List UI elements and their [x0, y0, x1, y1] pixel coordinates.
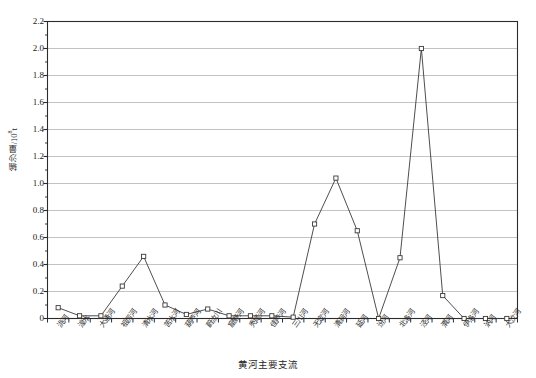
- plot-frame: [48, 22, 518, 319]
- data-point-marker: [248, 314, 252, 318]
- x-axis-title: 黄河主要支流: [0, 357, 536, 371]
- data-point-marker: [441, 293, 445, 297]
- data-point-marker: [312, 222, 316, 226]
- gridlines: [48, 22, 518, 292]
- data-point-marker: [355, 229, 359, 233]
- data-point-marker: [398, 256, 402, 260]
- data-point-marker: [419, 46, 423, 50]
- y-tick-label: 0.8: [18, 206, 44, 215]
- data-point-marker: [142, 254, 146, 258]
- data-point-marker: [377, 316, 381, 320]
- data-point-marker: [270, 314, 274, 318]
- data-point-marker: [505, 316, 509, 320]
- data-point-marker: [120, 284, 124, 288]
- y-tick-label: 1.6: [18, 98, 44, 107]
- y-tick-label: 0.6: [18, 233, 44, 242]
- y-axis-tick-labels: 00.20.40.60.81.01.21.41.61.82.02.2: [12, 0, 44, 378]
- x-axis-ticks: [48, 319, 518, 323]
- plot-border: [48, 22, 518, 319]
- data-point-marker: [462, 316, 466, 320]
- y-tick-label: 1.0: [18, 179, 44, 188]
- data-point-marker: [483, 316, 487, 320]
- y-axis-ticks: [44, 22, 48, 319]
- y-tick-label: 0: [18, 314, 44, 323]
- y-tick-label: 1.4: [18, 125, 44, 134]
- y-tick-label: 2.2: [18, 17, 44, 26]
- y-tick-label: 0.4: [18, 260, 44, 269]
- data-point-marker: [291, 315, 295, 319]
- data-point-marker: [56, 306, 60, 310]
- data-point-marker: [334, 176, 338, 180]
- data-point-marker: [77, 314, 81, 318]
- data-point-marker: [99, 314, 103, 318]
- data-point-marker: [184, 312, 188, 316]
- y-tick-label: 1.2: [18, 152, 44, 161]
- y-tick-label: 2.0: [18, 44, 44, 53]
- y-tick-label: 1.8: [18, 71, 44, 80]
- data-point-marker: [227, 314, 231, 318]
- y-tick-label: 0.2: [18, 287, 44, 296]
- data-point-marker: [206, 307, 210, 311]
- data-point-marker: [163, 303, 167, 307]
- chart-container: 输沙量/108t 00.20.40.60.81.01.21.41.61.82.0…: [0, 0, 536, 378]
- plot-area: [0, 0, 536, 378]
